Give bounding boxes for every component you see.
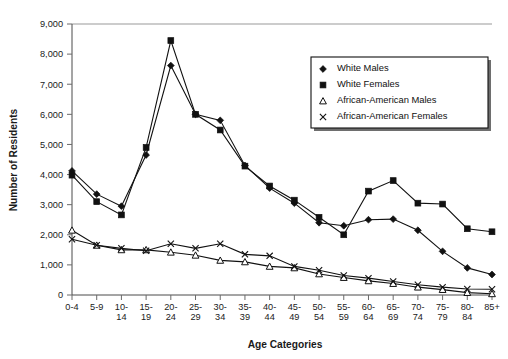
y-tick-label: 0: [58, 290, 63, 300]
svg-text:24: 24: [166, 312, 176, 322]
svg-text:70-: 70-: [411, 302, 424, 312]
data-point: [168, 38, 174, 44]
svg-text:55-: 55-: [337, 302, 350, 312]
svg-text:20-: 20-: [164, 302, 177, 312]
y-tick-label: 2,000: [40, 230, 63, 240]
svg-text:49: 49: [289, 312, 299, 322]
svg-text:50-: 50-: [312, 302, 325, 312]
x-tick-label: 85+: [484, 302, 500, 312]
data-point: [217, 117, 224, 124]
data-point: [489, 229, 495, 235]
svg-text:84: 84: [462, 312, 472, 322]
data-point: [340, 222, 347, 229]
x-axis-ticks: [72, 295, 492, 300]
y-tick-label: 3,000: [40, 200, 63, 210]
svg-text:85+: 85+: [484, 302, 500, 312]
data-point: [440, 201, 446, 207]
data-point: [119, 212, 125, 218]
svg-text:14: 14: [116, 312, 126, 322]
data-point: [366, 188, 372, 194]
svg-text:19: 19: [141, 312, 151, 322]
x-tick-label: 20-24: [164, 302, 177, 322]
x-tick-label: 30-34: [214, 302, 227, 322]
y-tick-label: 1,000: [40, 260, 63, 270]
legend-item-african-american-males[interactable]: African-American Males: [320, 94, 437, 105]
x-tick-label: 40-44: [263, 302, 276, 322]
y-axis-ticks: [67, 24, 72, 295]
x-tick-label: 75-79: [436, 302, 449, 322]
legend-label: White Males: [337, 62, 389, 73]
data-point: [69, 227, 76, 233]
y-tick-label: 9,000: [40, 19, 63, 29]
data-point: [390, 178, 396, 184]
data-point: [217, 127, 223, 133]
svg-text:29: 29: [190, 312, 200, 322]
svg-text:74: 74: [413, 312, 423, 322]
y-tick-label: 8,000: [40, 49, 63, 59]
x-tick-label: 60-64: [362, 302, 375, 322]
data-point: [390, 216, 397, 223]
data-point: [94, 199, 100, 205]
svg-text:25-: 25-: [189, 302, 202, 312]
data-point: [489, 271, 496, 278]
data-point: [316, 214, 322, 220]
svg-text:54: 54: [314, 312, 324, 322]
svg-text:59: 59: [339, 312, 349, 322]
x-tick-label: 70-74: [411, 302, 424, 322]
data-point: [242, 163, 248, 169]
x-tick-label: 80-84: [461, 302, 474, 322]
x-tick-label: 35-39: [238, 302, 251, 322]
data-point: [193, 111, 199, 117]
y-tick-label: 4,000: [40, 170, 63, 180]
x-tick-label: 45-49: [288, 302, 301, 322]
svg-text:65-: 65-: [387, 302, 400, 312]
data-point: [69, 172, 75, 178]
svg-text:10-: 10-: [115, 302, 128, 312]
legend-item-african-american-females[interactable]: African-American Females: [320, 110, 448, 121]
svg-text:69: 69: [388, 312, 398, 322]
y-tick-label: 6,000: [40, 110, 63, 120]
svg-text:5-9: 5-9: [90, 302, 103, 312]
x-tick-label: 55-59: [337, 302, 350, 322]
svg-text:30-: 30-: [214, 302, 227, 312]
x-axis-tick-labels: 0-45-910-1415-1920-2425-2930-3435-3940-4…: [65, 302, 499, 322]
x-tick-label: 0-4: [65, 302, 78, 312]
chart-legend: White MalesWhite FemalesAfrican-American…: [311, 57, 491, 131]
line-chart: 01,0002,0003,0004,0005,0006,0007,0008,00…: [0, 0, 508, 359]
svg-text:34: 34: [215, 312, 225, 322]
svg-text:60-: 60-: [362, 302, 375, 312]
data-point: [143, 145, 149, 151]
svg-text:45-: 45-: [288, 302, 301, 312]
svg-text:44: 44: [265, 312, 275, 322]
x-tick-label: 5-9: [90, 302, 103, 312]
svg-text:15-: 15-: [139, 302, 152, 312]
data-point: [464, 265, 471, 272]
data-point: [464, 226, 470, 232]
svg-text:35-: 35-: [238, 302, 251, 312]
y-tick-label: 5,000: [40, 140, 63, 150]
data-point: [267, 183, 273, 189]
data-point: [167, 62, 174, 69]
y-tick-label: 7,000: [40, 80, 63, 90]
legend-label: White Females: [337, 78, 400, 89]
svg-text:64: 64: [363, 312, 373, 322]
svg-text:40-: 40-: [263, 302, 276, 312]
series-african-american-females: [69, 236, 495, 292]
x-axis-title: Age Categories: [248, 339, 323, 350]
x-tick-label: 50-54: [312, 302, 325, 322]
legend-marker-square-filled-icon: [320, 82, 326, 88]
data-point: [291, 197, 297, 203]
legend-label: African-American Females: [337, 110, 448, 121]
svg-text:79: 79: [437, 312, 447, 322]
svg-text:80-: 80-: [461, 302, 474, 312]
data-point: [341, 232, 347, 238]
legend-label: African-American Males: [337, 94, 437, 105]
x-tick-label: 65-69: [387, 302, 400, 322]
x-tick-label: 15-19: [139, 302, 152, 322]
chart-container: 01,0002,0003,0004,0005,0006,0007,0008,00…: [0, 0, 508, 359]
svg-text:75-: 75-: [436, 302, 449, 312]
data-point: [365, 216, 372, 223]
x-tick-label: 25-29: [189, 302, 202, 322]
y-axis-title: Number of Residents: [8, 108, 19, 211]
data-point: [415, 200, 421, 206]
